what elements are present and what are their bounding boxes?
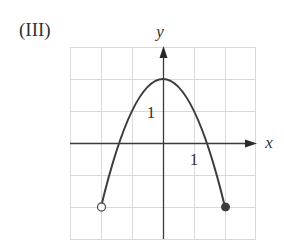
graph-plot: y x 1 1 — [0, 0, 284, 252]
open-endpoint-icon — [98, 203, 106, 211]
y-axis-label: y — [154, 22, 164, 41]
graph-figure: (III) y x — [0, 0, 284, 252]
x-tick-label-1: 1 — [190, 150, 199, 169]
closed-endpoint-icon — [222, 203, 230, 211]
y-tick-label-1: 1 — [147, 103, 156, 122]
x-axis-label: x — [264, 133, 273, 152]
